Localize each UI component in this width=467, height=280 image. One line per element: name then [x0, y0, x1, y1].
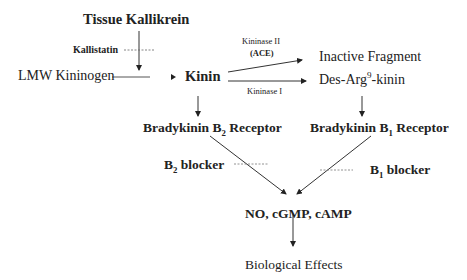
b1-blocker-prefix: B	[370, 162, 379, 177]
b1-receptor-suffix: Receptor	[393, 120, 449, 135]
node-kallistatin: Kallistatin	[73, 45, 118, 55]
node-des-arg9-kinin: Des-Arg9-kinin	[319, 73, 405, 87]
b2-receptor-prefix: Bradykinin B	[143, 120, 221, 135]
b2-receptor-suffix: Receptor	[226, 120, 282, 135]
b2-blocker-prefix: B	[164, 157, 173, 172]
b1-blocker-suffix: blocker	[383, 162, 430, 177]
b2-blocker-suffix: blocker	[177, 157, 224, 172]
node-tissue-kallikrein: Tissue Kallikrein	[83, 12, 189, 27]
des-arg-prefix: Des-Arg	[319, 72, 367, 87]
node-b1-blocker: B1 blocker	[370, 163, 430, 177]
label-kininase-i: Kininase I	[247, 87, 282, 96]
node-kinin: Kinin	[185, 69, 220, 84]
node-b2-receptor: Bradykinin B2 Receptor	[143, 121, 282, 135]
des-arg-suffix: -kinin	[372, 72, 405, 87]
arrow-b1-messengers	[297, 136, 371, 194]
label-kininase-ii: Kininase II	[242, 37, 280, 46]
kallikrein-kinin-pathway-diagram: Tissue Kallikrein Kallistatin LMW Kinino…	[0, 0, 467, 280]
arrowhead-to-kinin	[171, 74, 176, 80]
node-b1-receptor: Bradykinin B1 Receptor	[310, 121, 449, 135]
node-no-cgmp-camp: NO, cGMP, cAMP	[245, 207, 352, 221]
label-ace: (ACE)	[250, 49, 274, 58]
arrow-kinin-inactive	[228, 60, 302, 72]
b1-receptor-prefix: Bradykinin B	[310, 120, 388, 135]
node-b2-blocker: B2 blocker	[164, 158, 224, 172]
node-biological-effects: Biological Effects	[245, 258, 343, 272]
node-lmw-kininogen: LMW Kininogen	[18, 69, 115, 83]
connector-layer	[0, 0, 467, 280]
node-inactive-fragment: Inactive Fragment	[319, 50, 421, 64]
